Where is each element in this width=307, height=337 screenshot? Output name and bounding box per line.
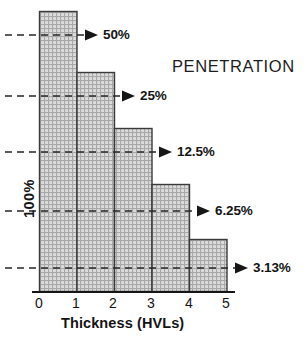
x-tick-1: 1	[72, 296, 80, 310]
penetration-bar-chart-figure: 50% 25% 12.5% 6.25% 3.13% PENETRATION 10…	[0, 0, 307, 337]
callout-label-50: 50%	[103, 28, 130, 42]
arrow-icon-6-25	[197, 206, 210, 217]
x-tick-5: 5	[222, 296, 230, 310]
x-tick-3: 3	[147, 296, 155, 310]
bar-2	[115, 129, 153, 292]
callout-label-25: 25%	[140, 89, 167, 103]
callout-label-12-5: 12.5%	[177, 145, 215, 159]
arrow-icon-25	[122, 91, 135, 102]
arrow-icon-12-5	[159, 147, 172, 158]
callout-label-3-13: 3.13%	[253, 261, 291, 275]
x-tick-4: 4	[185, 296, 193, 310]
x-tick-2: 2	[109, 296, 117, 310]
penetration-annotation: PENETRATION	[172, 58, 295, 75]
x-axis-title: Thickness (HVLs)	[61, 316, 184, 331]
chart-canvas	[0, 0, 307, 337]
arrow-icon-50	[85, 30, 98, 41]
bar-1	[77, 73, 115, 292]
bar-3	[152, 185, 190, 292]
x-tick-0: 0	[35, 296, 43, 310]
callout-label-6-25: 6.25%	[215, 204, 253, 218]
arrow-icon-3-13	[235, 263, 248, 274]
y-axis-title: 100%	[22, 179, 37, 218]
bar-4	[190, 240, 228, 292]
